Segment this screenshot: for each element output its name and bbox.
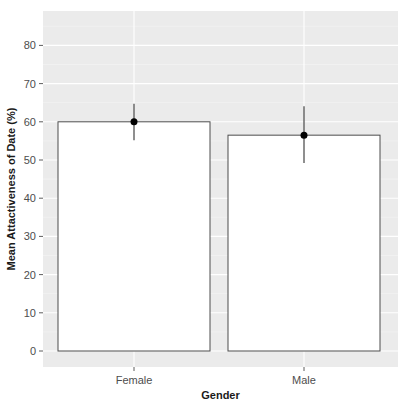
y-tick-label: 70 xyxy=(24,78,36,90)
x-tick-label: Female xyxy=(116,374,153,386)
y-tick-label: 0 xyxy=(30,345,36,357)
bar-chart: 01020304050607080FemaleMaleGenderMean At… xyxy=(0,0,406,411)
y-tick-label: 60 xyxy=(24,116,36,128)
mean-point xyxy=(131,118,138,125)
bar-female xyxy=(58,104,210,351)
y-tick-label: 20 xyxy=(24,269,36,281)
x-axis-title: Gender xyxy=(201,389,240,401)
y-tick-label: 50 xyxy=(24,154,36,166)
y-tick-label: 80 xyxy=(24,39,36,51)
y-tick-label: 30 xyxy=(24,230,36,242)
mean-point xyxy=(301,132,308,139)
bar-male xyxy=(228,106,380,351)
y-axis-title: Mean Attactiveness of Date (%) xyxy=(5,107,17,270)
y-tick-label: 10 xyxy=(24,307,36,319)
x-tick-label: Male xyxy=(292,374,316,386)
y-tick-label: 40 xyxy=(24,192,36,204)
